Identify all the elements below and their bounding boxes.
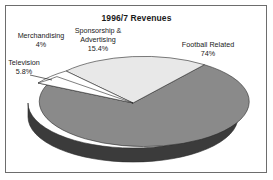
pie-label-football-value: 74%: [168, 49, 248, 58]
pie-label-football-related: Football Related 74%: [168, 40, 248, 58]
pie-label-sponsorship-name-line1: Sponsorship &: [66, 26, 130, 35]
pie-label-television-name: Television: [2, 58, 46, 67]
pie-label-sponsorship-name-line2: Advertising: [66, 35, 130, 44]
pie-label-sponsorship-advertising: Sponsorship & Advertising 15.4%: [66, 26, 130, 53]
pie-label-merchandising: Merchandising 4%: [12, 31, 70, 49]
pie-chart-graphic: [0, 0, 273, 180]
pie-label-merchandising-value: 4%: [12, 40, 70, 49]
pie-label-television: Television 5.8%: [2, 58, 46, 76]
pie-label-football-name: Football Related: [168, 40, 248, 49]
pie-label-sponsorship-value: 15.4%: [66, 44, 130, 53]
chart-screenshot: 1996/7 Revenues Merchandising 4% Sponsor…: [0, 0, 273, 180]
pie-label-merchandising-name: Merchandising: [12, 31, 70, 40]
pie-label-television-value: 5.8%: [2, 67, 46, 76]
